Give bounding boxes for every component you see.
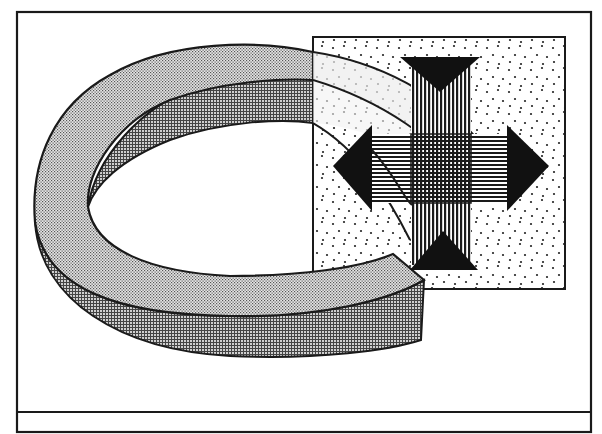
illustration-canvas: [0, 0, 602, 434]
illustration-svg: [0, 0, 602, 434]
cross-overlap-grid: [411, 134, 471, 203]
